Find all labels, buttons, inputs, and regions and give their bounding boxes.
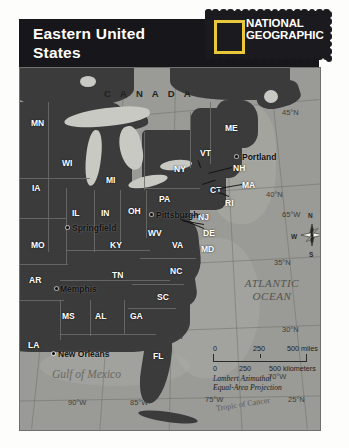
state-label-me: ME [225, 123, 238, 133]
state-label-nc: NC [170, 266, 182, 276]
logo-scallop-edge [316, 9, 323, 16]
city-dot-memphis [55, 287, 58, 290]
state-border [60, 280, 170, 281]
compass-star-icon [301, 224, 321, 246]
state-label-ri: RI [225, 198, 234, 208]
compass-rose: N E S W [292, 213, 321, 257]
state-label-de: DE [203, 228, 215, 238]
state-label-mn: MN [31, 118, 44, 128]
state-border [120, 190, 121, 246]
logo-scallop-edge [326, 18, 333, 25]
city-dot-new-orleans [52, 352, 55, 355]
map-page: C A N A D A ATLANTIC OCEAN Gulf of Mexic… [0, 0, 349, 448]
state-label-md: MD [201, 244, 214, 254]
state-label-in: IN [101, 208, 110, 218]
scale-bar-graphic [213, 354, 307, 362]
scale-km-start: 0 [213, 364, 217, 373]
scale-miles-start: 0 [213, 344, 217, 353]
scale-km-row: 0 250 500 kilometers [213, 364, 321, 374]
state-border [90, 300, 91, 336]
state-border [190, 112, 191, 168]
logo-scallop-edge [326, 33, 333, 40]
logo-scallop-edge [257, 9, 264, 16]
state-label-va: VA [172, 240, 183, 250]
state-label-vt: VT [200, 148, 211, 158]
title-line2: States [33, 44, 81, 61]
scale-miles-mid: 250 [253, 344, 265, 353]
city-dot-portland [235, 155, 238, 158]
state-label-nh: NH [233, 163, 245, 173]
logo-scallop-edge [294, 54, 301, 61]
scale-km-end: 500 kilometers [269, 364, 316, 373]
logo-scallop-edge [220, 9, 227, 16]
atlantic-line2: OCEAN [252, 290, 291, 302]
state-label-ga: GA [130, 311, 143, 321]
logo-scallop-edge [326, 48, 333, 55]
compass-south-label: S [309, 251, 313, 258]
coordinate-label: 45°N [282, 108, 299, 117]
logo-line2: GEOGRAPHIC [246, 30, 324, 42]
city-label-portland: Portland [242, 152, 276, 162]
state-label-fl: FL [153, 351, 163, 361]
state-label-oh: OH [128, 206, 141, 216]
state-border [144, 132, 145, 190]
coordinate-label: 80°W [165, 332, 183, 341]
landmass-florida-panhandle [106, 326, 158, 346]
logo-scallop-edge [242, 54, 249, 61]
page-title: Eastern United States [33, 25, 223, 63]
projection-line1: Lambert Azimuthal [213, 374, 271, 383]
state-label-ar: AR [29, 275, 41, 285]
coordinate-label: 90°W [68, 398, 86, 407]
projection-line2: Equal-Area Projection [213, 383, 282, 392]
title-line1: Eastern United [33, 25, 145, 42]
state-border [132, 284, 184, 285]
city-dot-springfield [66, 226, 69, 229]
state-label-ms: MS [62, 311, 75, 321]
logo-scallop-edge [326, 55, 333, 62]
national-geographic-logo: NATIONAL GEOGRAPHIC [205, 11, 330, 58]
state-border [128, 308, 176, 309]
scale-bar: 0 250 500 miles 0 250 500 kilometers Lam… [213, 344, 321, 393]
logo-scallop-edge [220, 54, 227, 61]
city-label-new-orleans: New Orleans [58, 349, 110, 359]
scale-km-mid: 250 [239, 364, 251, 373]
logo-scallop-edge [294, 9, 301, 16]
state-border [20, 264, 68, 265]
state-label-al: AL [95, 311, 106, 321]
city-label-pittsburgh: Pittsburgh [156, 210, 199, 220]
state-label-sc: SC [157, 292, 169, 302]
lake-small-north [80, 76, 96, 87]
landmass-canada [19, 67, 134, 106]
state-label-il: IL [72, 208, 80, 218]
logo-scallop-edge [316, 54, 323, 61]
label-atlantic-ocean: ATLANTIC OCEAN [232, 277, 312, 303]
state-border [66, 250, 150, 251]
state-label-wi: WI [62, 158, 72, 168]
state-border [140, 258, 196, 259]
coordinate-label: 40°N [266, 190, 283, 199]
logo-scallop-edge [279, 9, 286, 16]
state-border [144, 188, 200, 189]
logo-scallop-edge [279, 54, 286, 61]
state-border [124, 300, 125, 334]
state-label-mo: MO [31, 240, 45, 250]
state-label-ma: MA [242, 180, 255, 190]
state-label-mi: MI [106, 175, 115, 185]
atlantic-line1: ATLANTIC [245, 277, 300, 289]
compass-north-label: N [308, 212, 313, 219]
state-label-ky: KY [110, 240, 122, 250]
label-canada: C A N A D A [104, 88, 194, 99]
state-label-ny: NY [174, 164, 186, 174]
city-label-springfield: Springfield [72, 223, 116, 233]
city-dot-pittsburgh [150, 213, 153, 216]
state-border [20, 178, 90, 179]
state-border [20, 300, 64, 301]
compass-west-label: W [291, 233, 297, 240]
state-label-la: LA [28, 340, 39, 350]
state-border [146, 190, 147, 238]
city-label-memphis: Memphis [60, 284, 97, 294]
logo-scallop-edge [205, 54, 212, 61]
logo-scallop-edge [326, 11, 333, 18]
logo-scallop-edge [242, 9, 249, 16]
state-label-wv: WV [148, 228, 162, 238]
